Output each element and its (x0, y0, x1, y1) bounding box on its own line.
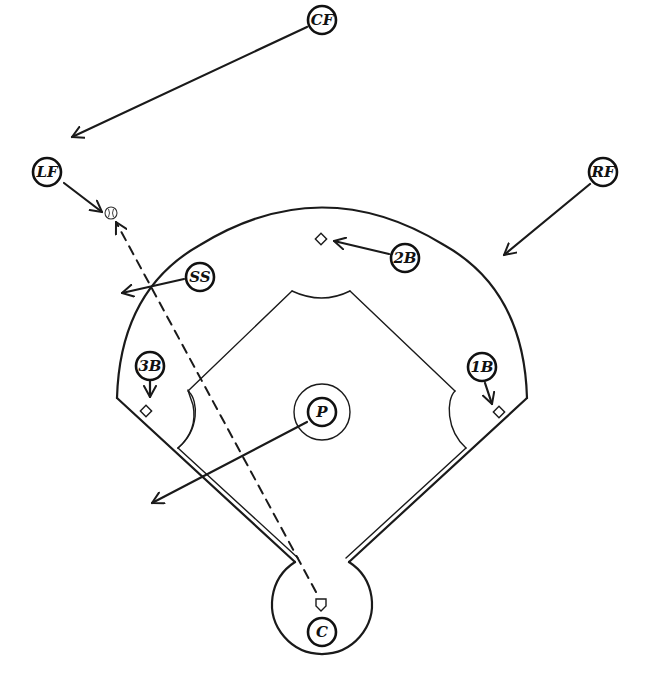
position-label: 1B (470, 358, 493, 376)
second-base-icon (315, 233, 326, 244)
position-lf: LF (33, 158, 61, 186)
movement-arrows (64, 27, 590, 503)
1b-arrow (485, 383, 492, 404)
position-c: C (308, 618, 336, 646)
position-3b: 3B (136, 352, 164, 380)
outfield-boundary (117, 208, 527, 563)
position-label: RF (590, 163, 615, 181)
2b-arrow (334, 241, 389, 254)
cf-arrow (72, 27, 307, 137)
position-label: 3B (138, 357, 161, 375)
lf-arrow (64, 183, 102, 212)
position-label: LF (35, 163, 59, 181)
position-rf: RF (589, 158, 617, 186)
position-label: CF (311, 11, 335, 29)
position-cf: CF (308, 6, 336, 34)
first-base-icon (493, 406, 504, 417)
p-arrow (152, 422, 307, 503)
position-label: 2B (392, 249, 416, 267)
third-base-icon (140, 405, 151, 416)
position-2b: 2B (391, 244, 419, 272)
position-p: P (308, 398, 336, 426)
position-ss: SS (186, 263, 214, 291)
rf-arrow (504, 184, 590, 255)
baseball-icon (105, 207, 117, 219)
home-plate-icon (316, 599, 326, 611)
baseball-field-diagram: CF LF RF SS 2B 3B 1B P C (0, 0, 654, 699)
position-label: P (315, 403, 328, 421)
position-1b: 1B (468, 353, 496, 381)
position-label: SS (189, 268, 211, 286)
position-label: C (316, 623, 328, 641)
